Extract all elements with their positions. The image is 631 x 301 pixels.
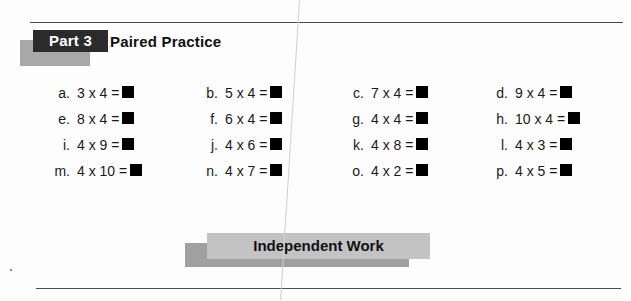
independent-work-label: Independent Work	[207, 233, 430, 259]
page-title: Paired Practice	[110, 33, 221, 50]
problem-label: o.	[338, 163, 371, 179]
problem-label: k.	[338, 137, 371, 153]
problem-label: c.	[338, 85, 371, 101]
problem-row: a. 3 x 4 = b. 5 x 4 = c. 7 x 4 = d. 9 x …	[44, 80, 610, 106]
answer-box[interactable]	[416, 86, 428, 98]
problem-expression: 4 x 4 =	[371, 111, 413, 127]
problem-item: a. 3 x 4 =	[44, 85, 192, 101]
problem-item: f. 6 x 4 =	[192, 111, 338, 127]
answer-box[interactable]	[270, 164, 282, 176]
part-label: Part 3	[33, 30, 108, 52]
problem-item: e. 8 x 4 =	[44, 111, 192, 127]
problem-item: p. 4 x 5 =	[482, 163, 610, 179]
answer-box[interactable]	[270, 86, 282, 98]
answer-box[interactable]	[130, 164, 142, 176]
problem-expression: 6 x 4 =	[225, 111, 267, 127]
problem-expression: 4 x 2 =	[371, 163, 413, 179]
problem-label: l.	[482, 137, 515, 153]
problem-label: a.	[44, 85, 77, 101]
problem-label: h.	[482, 111, 515, 127]
problem-item: o. 4 x 2 =	[338, 163, 482, 179]
problem-item: j. 4 x 6 =	[192, 137, 338, 153]
problem-label: b.	[192, 85, 225, 101]
answer-box[interactable]	[122, 112, 134, 124]
problem-label: n.	[192, 163, 225, 179]
problem-label: f.	[192, 111, 225, 127]
problem-expression: 4 x 3 =	[515, 137, 557, 153]
answer-box[interactable]	[416, 164, 428, 176]
problem-item: b. 5 x 4 =	[192, 85, 338, 101]
answer-box[interactable]	[122, 138, 134, 150]
answer-box[interactable]	[270, 138, 282, 150]
worksheet-page: Part 3 Paired Practice a. 3 x 4 = b. 5 x…	[0, 0, 631, 301]
problem-expression: 4 x 9 =	[77, 137, 119, 153]
problem-item: k. 4 x 8 =	[338, 137, 482, 153]
part-banner: Part 3	[20, 30, 108, 66]
problem-label: e.	[44, 111, 77, 127]
problem-expression: 4 x 6 =	[225, 137, 267, 153]
problem-grid: a. 3 x 4 = b. 5 x 4 = c. 7 x 4 = d. 9 x …	[44, 80, 610, 184]
problem-label: p.	[482, 163, 515, 179]
problem-label: g.	[338, 111, 371, 127]
problem-item: l. 4 x 3 =	[482, 137, 610, 153]
problem-item: c. 7 x 4 =	[338, 85, 482, 101]
answer-box[interactable]	[122, 86, 134, 98]
answer-box[interactable]	[270, 112, 282, 124]
problem-expression: 5 x 4 =	[225, 85, 267, 101]
problem-item: g. 4 x 4 =	[338, 111, 482, 127]
problem-label: d.	[482, 85, 515, 101]
top-divider-rule	[30, 22, 623, 23]
problem-expression: 8 x 4 =	[77, 111, 119, 127]
problem-item: m. 4 x 10 =	[44, 163, 192, 179]
answer-box[interactable]	[560, 138, 572, 150]
problem-expression: 7 x 4 =	[371, 85, 413, 101]
problem-item: n. 4 x 7 =	[192, 163, 338, 179]
problem-row: e. 8 x 4 = f. 6 x 4 = g. 4 x 4 = h. 10 x…	[44, 106, 610, 132]
problem-item: i. 4 x 9 =	[44, 137, 192, 153]
answer-box[interactable]	[560, 86, 572, 98]
problem-label: j.	[192, 137, 225, 153]
problem-item: h. 10 x 4 =	[482, 111, 610, 127]
problem-expression: 4 x 7 =	[225, 163, 267, 179]
independent-work-banner: Independent Work	[185, 233, 430, 269]
problem-expression: 10 x 4 =	[515, 111, 565, 127]
problem-row: i. 4 x 9 = j. 4 x 6 = k. 4 x 8 = l. 4 x …	[44, 132, 610, 158]
problem-expression: 9 x 4 =	[515, 85, 557, 101]
problem-row: m. 4 x 10 = n. 4 x 7 = o. 4 x 2 = p. 4 x…	[44, 158, 610, 184]
problem-expression: 4 x 5 =	[515, 163, 557, 179]
answer-box[interactable]	[416, 138, 428, 150]
problem-expression: 3 x 4 =	[77, 85, 119, 101]
problem-expression: 4 x 8 =	[371, 137, 413, 153]
answer-box[interactable]	[560, 164, 572, 176]
problem-expression: 4 x 10 =	[77, 163, 127, 179]
bottom-divider-rule	[36, 288, 621, 289]
answer-box[interactable]	[416, 112, 428, 124]
problem-label: m.	[44, 163, 77, 179]
problem-item: d. 9 x 4 =	[482, 85, 610, 101]
answer-box[interactable]	[568, 112, 580, 124]
scan-artifact-speck	[10, 269, 12, 271]
problem-label: i.	[44, 137, 77, 153]
